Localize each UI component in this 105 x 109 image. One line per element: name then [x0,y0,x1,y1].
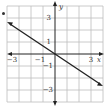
y-tick-neg1: −1 [43,62,53,70]
y-tick-1: 1 [47,38,51,46]
tick-labels: −3 −1 3 x 3 1 −1 −3 y [7,3,101,94]
x-tick-neg3: −3 [7,56,17,64]
y-tick-3: 3 [47,14,51,22]
y-axis-up-arrow-icon [53,1,57,6]
coordinate-plane: −3 −1 3 x 3 1 −1 −3 y [0,0,105,109]
x-tick-3: 3 [89,56,93,64]
y-axis-label: y [58,3,64,11]
y-tick-neg3: −3 [43,86,53,94]
y-axis-down-arrow-icon [53,101,57,106]
x-axis-label: x [97,56,101,64]
